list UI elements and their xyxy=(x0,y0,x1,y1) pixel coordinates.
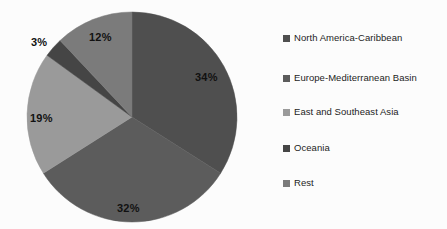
legend-item-rest: Rest xyxy=(283,177,314,189)
slice-value-label-europe-mediterranean-basin: 32% xyxy=(117,202,140,214)
legend-item-label: Rest xyxy=(294,177,314,189)
legend-swatch-icon xyxy=(283,35,290,42)
legend-item-label: Oceania xyxy=(294,142,330,154)
legend-item-label: North America-Caribbean xyxy=(294,32,402,44)
legend-swatch-icon xyxy=(283,145,290,152)
legend-swatch-icon xyxy=(283,180,290,187)
slice-value-label-east-and-southeast-asia: 19% xyxy=(30,112,53,124)
slice-value-label-north-america-caribbean: 34% xyxy=(195,71,218,83)
legend-item-oceania: Oceania xyxy=(283,142,330,154)
slice-value-label-oceania: 3% xyxy=(31,36,47,48)
legend-swatch-icon xyxy=(283,75,290,82)
pie-chart: 34% 32% 19% 3% 12% North America-Caribbe… xyxy=(0,0,447,229)
slice-value-label-rest: 12% xyxy=(89,31,112,43)
legend-item-label: Europe-Mediterranean Basin xyxy=(294,72,417,84)
pie-plot-area: 34% 32% 19% 3% 12% xyxy=(0,0,268,229)
legend-item-east-and-southeast-asia: East and Southeast Asia xyxy=(283,106,399,118)
legend-swatch-icon xyxy=(283,109,290,116)
legend-item-europe-mediterranean-basin: Europe-Mediterranean Basin xyxy=(283,72,417,84)
legend-item-label: East and Southeast Asia xyxy=(294,106,399,118)
pie-slice-group xyxy=(27,12,237,222)
legend-item-north-america-caribbean: North America-Caribbean xyxy=(283,32,402,44)
